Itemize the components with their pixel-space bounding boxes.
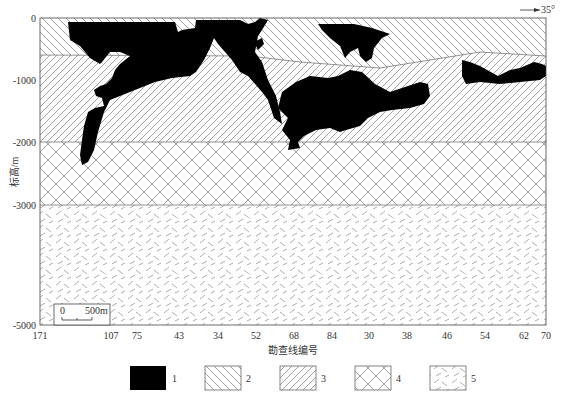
y-axis-label: 标高/m bbox=[8, 157, 20, 188]
x-tick: 70 bbox=[541, 330, 551, 341]
orientation-arrow: 35° bbox=[520, 4, 555, 15]
layer-4 bbox=[40, 142, 546, 205]
x-tick: 52 bbox=[251, 330, 261, 341]
svg-text:500m: 500m bbox=[85, 305, 108, 316]
orientation-label: 35° bbox=[541, 4, 555, 15]
layer-5 bbox=[40, 205, 546, 325]
x-tick: 75 bbox=[132, 330, 142, 341]
y-axis: 0 -1000 -2000 -3000 -5000 标高/m bbox=[8, 13, 36, 331]
geologic-cross-section: 35° 0 -1000 -2000 -3000 -5000 标高/m 171 1… bbox=[0, 0, 577, 402]
y-tick-2000: -2000 bbox=[13, 137, 36, 148]
scale-bar: 0 500m bbox=[54, 304, 110, 325]
x-tick: 62 bbox=[519, 330, 529, 341]
x-tick: 107 bbox=[104, 330, 119, 341]
legend-swatch-3 bbox=[280, 366, 316, 390]
x-axis: 171 107 75 43 34 52 68 84 30 38 46 54 62… bbox=[33, 330, 552, 356]
svg-text:0: 0 bbox=[60, 305, 65, 316]
svg-text:5: 5 bbox=[471, 373, 476, 384]
x-tick: 46 bbox=[442, 330, 452, 341]
x-tick: 34 bbox=[213, 330, 223, 341]
legend-swatch-5 bbox=[430, 366, 466, 390]
svg-text:1: 1 bbox=[172, 373, 177, 384]
svg-text:4: 4 bbox=[396, 373, 401, 384]
legend: 1 2 3 4 5 bbox=[130, 366, 476, 390]
legend-swatch-2 bbox=[205, 366, 241, 390]
y-tick-1000: -1000 bbox=[13, 75, 36, 86]
x-axis-label: 勘查线编号 bbox=[268, 344, 318, 356]
x-tick: 43 bbox=[174, 330, 184, 341]
svg-text:2: 2 bbox=[246, 373, 251, 384]
y-tick-3000: -3000 bbox=[13, 200, 36, 211]
x-tick: 30 bbox=[364, 330, 374, 341]
legend-swatch-1 bbox=[130, 366, 166, 390]
y-tick-0: 0 bbox=[31, 13, 36, 24]
x-tick: 171 bbox=[33, 330, 48, 341]
x-tick: 68 bbox=[289, 330, 299, 341]
svg-text:3: 3 bbox=[321, 373, 326, 384]
x-tick: 54 bbox=[480, 330, 490, 341]
x-tick: 84 bbox=[327, 330, 337, 341]
legend-swatch-4 bbox=[355, 366, 391, 390]
x-tick: 38 bbox=[402, 330, 412, 341]
